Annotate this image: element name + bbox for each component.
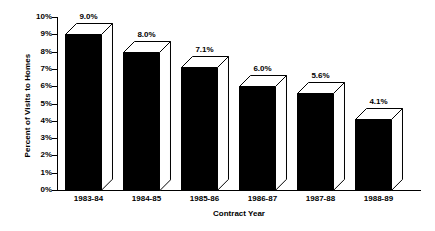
- bar-top-face: [297, 82, 344, 93]
- bar-value-label: 7.1%: [181, 45, 228, 54]
- bar-top-face: [239, 75, 286, 86]
- y-axis-tick-mark: [52, 17, 57, 18]
- x-axis-category-label: 1987-88: [292, 194, 350, 203]
- y-axis-tick-labels: 10%9%8%7%6%5%4%3%2%1%0%: [20, 0, 52, 231]
- x-axis-category-label: 1984-85: [118, 194, 176, 203]
- bar: 8.0%: [123, 41, 170, 190]
- bar: 9.0%: [65, 23, 112, 190]
- y-axis-tick-mark: [52, 86, 57, 87]
- y-axis-tick-mark: [52, 104, 57, 105]
- bar-value-label: 8.0%: [123, 30, 170, 39]
- bar-top-face: [65, 23, 112, 34]
- y-axis-tick-mark: [52, 34, 57, 35]
- bar-side-face: [333, 82, 344, 190]
- y-axis-tick-label: 3%: [20, 134, 52, 142]
- bar-front-face: [123, 52, 159, 190]
- bar-front-face: [65, 34, 101, 190]
- bar-top-face: [123, 41, 170, 52]
- x-axis-category-label: 1985-86: [176, 194, 234, 203]
- y-axis-tick-label: 2%: [20, 151, 52, 159]
- y-axis-tick-mark: [52, 52, 57, 53]
- bar: 6.0%: [239, 75, 286, 190]
- bar: 4.1%: [355, 108, 402, 190]
- bar: 7.1%: [181, 56, 228, 190]
- x-axis-title: Contract Year: [57, 209, 421, 218]
- bar-front-face: [239, 86, 275, 190]
- bar-value-label: 9.0%: [65, 12, 112, 21]
- y-axis-tick-mark: [52, 69, 57, 70]
- y-axis-tick-mark: [52, 173, 57, 174]
- y-axis-tick-label: 4%: [20, 117, 52, 125]
- bar-side-face: [101, 23, 112, 190]
- y-axis-tick-label: 5%: [20, 100, 52, 108]
- x-axis-category-label: 1983-84: [60, 194, 118, 203]
- bar-chart: Percent of Visits to Homes 10%9%8%7%6%5%…: [0, 0, 435, 231]
- y-axis-tick-mark: [52, 138, 57, 139]
- y-axis-tick-label: 7%: [20, 65, 52, 73]
- bar-value-label: 4.1%: [355, 97, 402, 106]
- bar-front-face: [297, 93, 333, 190]
- y-axis-tick-mark: [52, 190, 57, 191]
- bar: 5.6%: [297, 82, 344, 190]
- y-axis-tick-label: 6%: [20, 82, 52, 90]
- x-axis-category-label: 1988-89: [350, 194, 408, 203]
- y-axis-tick-mark: [52, 155, 57, 156]
- bar-side-face: [391, 108, 402, 190]
- bar-side-face: [159, 41, 170, 190]
- y-axis-tick-mark: [52, 121, 57, 122]
- bar-value-label: 6.0%: [239, 64, 286, 73]
- bar-top-face: [355, 108, 402, 119]
- bar-top-face: [181, 56, 228, 67]
- y-axis-tick-label: 9%: [20, 30, 52, 38]
- bar-front-face: [181, 67, 217, 190]
- y-axis-tick-label: 0%: [20, 186, 52, 194]
- plot-area: 9.0%1983-848.0%1984-857.1%1985-866.0%198…: [57, 0, 421, 231]
- bar-value-label: 5.6%: [297, 71, 344, 80]
- bar-side-face: [275, 75, 286, 190]
- y-axis-tick-label: 10%: [20, 13, 52, 21]
- y-axis-tick-label: 8%: [20, 48, 52, 56]
- y-axis-tick-label: 1%: [20, 169, 52, 177]
- bar-side-face: [217, 56, 228, 190]
- x-axis-category-label: 1986-87: [234, 194, 292, 203]
- bar-front-face: [355, 119, 391, 190]
